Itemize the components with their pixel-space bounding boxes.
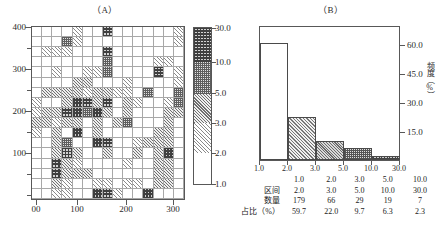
heatmap-cell (73, 118, 83, 128)
heatmap-cell (174, 47, 184, 57)
heatmap-cell (32, 37, 42, 47)
colorbar-segment-3-5 (194, 94, 211, 124)
heatmap-cell (133, 47, 143, 57)
heatmap-cell (73, 67, 83, 77)
heatmap-cell (174, 148, 184, 158)
colorbar-label-3: 3.0 (215, 118, 226, 128)
heatmap-cell (32, 179, 42, 189)
heatmap-cell (83, 118, 93, 128)
heatmap-cell (174, 108, 184, 118)
histogram-bar (260, 43, 288, 160)
table-cell: 10.0 (372, 186, 404, 197)
table-cell: 19 (372, 196, 404, 207)
heatmap-cell (42, 179, 52, 189)
heatmap-cell (52, 98, 62, 108)
panel-a-xtick-200: 200 (113, 204, 139, 214)
heatmap-cell (62, 57, 72, 67)
heatmap-cell (113, 57, 123, 67)
histogram-bars (260, 27, 399, 160)
heatmap-cell (133, 67, 143, 77)
panel-b-xtick-3: 3.0 (304, 164, 326, 173)
panel-a-title: （A） (92, 3, 118, 16)
table-cell: 9.7 (347, 207, 371, 218)
panel-b-xtick-5: 5.0 (332, 164, 354, 173)
panel-a-xtick-mark (126, 200, 127, 205)
heatmap-cell (123, 189, 133, 199)
panel-a-xtick-300: 300 (160, 204, 186, 214)
heatmap-cell (83, 179, 93, 189)
heatmap-cell (164, 47, 174, 57)
heatmap-cell (93, 57, 103, 67)
table-cell: 2.0 (283, 186, 315, 197)
table-rowlabel-count: 数量 (237, 196, 283, 207)
heatmap-cell (113, 118, 123, 128)
heatmap-cell (93, 138, 103, 148)
colorbar-segment-10-30 (194, 28, 211, 62)
heatmap-cell (143, 78, 153, 88)
panel-b-ytick-mark (400, 45, 405, 46)
heatmap-cell (164, 179, 174, 189)
panel-b-y-axis-label: 频度（%） (424, 62, 435, 98)
heatmap-cell (164, 78, 174, 88)
panel-b-ytick-mark (400, 103, 405, 104)
heatmap-cell (62, 67, 72, 77)
heatmap-cell (123, 37, 133, 47)
colorbar-segment-1-2 (194, 153, 211, 184)
heatmap-cell (73, 98, 83, 108)
heatmap-cell (174, 118, 184, 128)
heatmap-cell (93, 118, 103, 128)
heatmap-cell (164, 57, 174, 67)
heatmap-cell (93, 27, 103, 37)
table-cell: 59.7 (283, 207, 315, 218)
heatmap-cell (133, 78, 143, 88)
heatmap-cell (154, 138, 164, 148)
heatmap-cell (93, 128, 103, 138)
heatmap-cell (73, 78, 83, 88)
colorbar-label-30: 30.0 (215, 23, 231, 33)
colorbar-segment-2-3 (194, 123, 211, 153)
heatmap-cell (154, 169, 164, 179)
heatmap-cell (73, 47, 83, 57)
heatmap-cell (83, 138, 93, 148)
summary-table: 1.0 2.0 3.0 5.0 10.0 区间 2.0 3.0 5.0 10.0… (237, 175, 436, 217)
heatmap-cell (62, 169, 72, 179)
heatmap-cell (93, 67, 103, 77)
heatmap-cell (73, 108, 83, 118)
table-cell: 1.0 (283, 175, 315, 186)
panel-a-ytick-300: 300 (0, 64, 26, 74)
heatmap-cell (42, 138, 52, 148)
panel-a-ytick-minor (27, 195, 31, 196)
heatmap-cell (73, 27, 83, 37)
table-cell: 3.0 (315, 186, 347, 197)
heatmap-cell (123, 98, 133, 108)
heatmap-cell (52, 78, 62, 88)
heatmap-cell (52, 108, 62, 118)
heatmap-cell (103, 179, 113, 189)
heatmap-cell (133, 118, 143, 128)
heatmap-cell (143, 47, 153, 57)
heatmap-cell (62, 118, 72, 128)
heatmap-cell (52, 138, 62, 148)
heatmap-cell (133, 37, 143, 47)
figure-container: （A） （B） 400 300 200 100 00 100 200 300 3… (0, 0, 436, 233)
heatmap-cell (143, 118, 153, 128)
heatmap-cell (83, 57, 93, 67)
heatmap-cell (143, 148, 153, 158)
heatmap-cell (52, 169, 62, 179)
heatmap-cell (113, 108, 123, 118)
heatmap-cell (93, 159, 103, 169)
heatmap-cell (73, 169, 83, 179)
heatmap-cell (32, 159, 42, 169)
heatmap-cell (113, 159, 123, 169)
table-cell: 30.0 (404, 186, 436, 197)
heatmap-cell (174, 57, 184, 67)
heatmap-cell (42, 88, 52, 98)
heatmap-cell (103, 67, 113, 77)
heatmap-cell (83, 159, 93, 169)
panel-a-xtick-mark (173, 200, 174, 205)
heatmap-cell (62, 128, 72, 138)
panel-b-xtick-30: 30.0 (387, 164, 411, 173)
heatmap-cell (123, 27, 133, 37)
heatmap-cell (133, 159, 143, 169)
table-row-percents: 占比（%） 59.7 22.0 9.7 6.3 2.3 (237, 207, 436, 218)
